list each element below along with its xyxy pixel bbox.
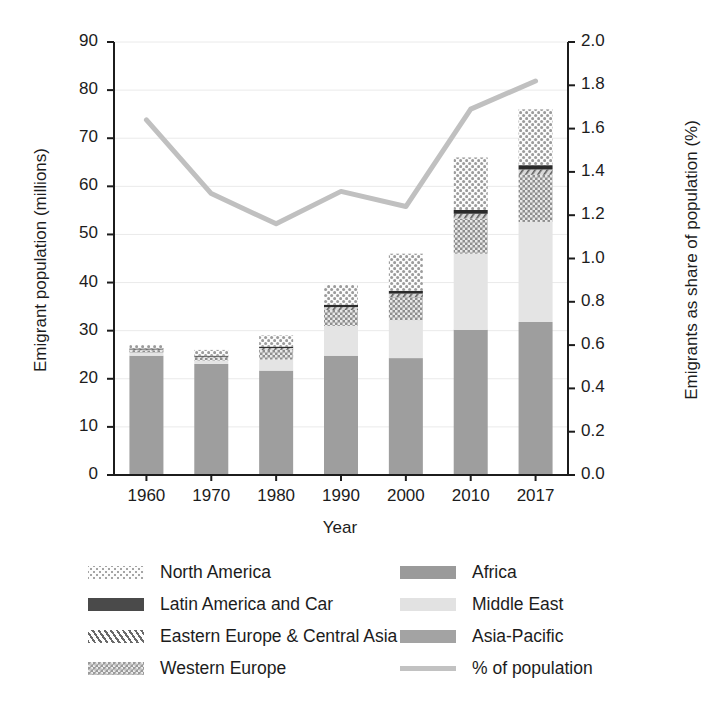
bar-segment	[259, 371, 293, 475]
legend-item-label: Middle East	[472, 594, 563, 615]
bar-segment	[454, 210, 488, 214]
y-axis-right-tick-label: 0.8	[581, 291, 621, 311]
bar-segment	[389, 358, 423, 475]
y-axis-right-tick-label: 0.0	[581, 464, 621, 484]
y-axis-left-tick-label: 40	[58, 272, 98, 292]
y-axis-left-tick-label: 90	[58, 31, 98, 51]
legend-item-label: Africa	[472, 562, 517, 583]
bar-segment	[324, 307, 358, 310]
y-axis-left-tick-label: 60	[58, 175, 98, 195]
legend-item[interactable]: % of population	[400, 652, 593, 684]
bar-segment	[129, 348, 163, 349]
y-axis-left-tick-label: 30	[58, 320, 98, 340]
y-axis-left-tick-label: 20	[58, 368, 98, 388]
bar-segment	[519, 109, 553, 165]
bar-segment	[389, 291, 423, 294]
bar-segment	[519, 222, 553, 322]
y-axis-right-tick-label: 1.6	[581, 118, 621, 138]
legend-swatch-icon	[88, 630, 144, 643]
legend-swatch-icon	[400, 666, 456, 671]
bar-segment	[519, 175, 553, 222]
bar-segment	[259, 350, 293, 360]
y-axis-left-tick-label: 50	[58, 223, 98, 243]
bar-segment	[454, 214, 488, 219]
x-axis-tick-label: 1980	[241, 486, 311, 506]
y-axis-right-tick-label: 1.4	[581, 161, 621, 181]
bar-segment	[389, 297, 423, 320]
bar-segment	[454, 254, 488, 330]
bar-segment	[389, 320, 423, 358]
y-axis-right-tick-label: 1.2	[581, 204, 621, 224]
x-axis-tick-label: 2000	[371, 486, 441, 506]
y-axis-left-title: Emigrant population (millions)	[31, 80, 51, 440]
bar-segment	[324, 326, 358, 356]
bar-segment	[324, 305, 358, 307]
bar-segment	[519, 322, 553, 475]
bar-segment	[259, 335, 293, 346]
legend-column-left: North AmericaLatin America and CarEaster…	[88, 556, 397, 684]
bar-segment	[324, 285, 358, 305]
x-axis-title: Year	[110, 518, 570, 538]
legend-swatch-icon	[88, 566, 144, 579]
y-axis-left-tick-label: 70	[58, 127, 98, 147]
bar-segment	[129, 345, 163, 348]
legend-item-label: Latin America and Car	[160, 594, 333, 615]
legend-item[interactable]: Asia-Pacific	[400, 620, 593, 652]
chart-bars	[129, 109, 552, 475]
x-axis-tick-label: 1990	[306, 486, 376, 506]
chart-container: Emigrant population (millions) Emigrants…	[0, 0, 707, 707]
x-axis-tick-label: 1970	[176, 486, 246, 506]
y-axis-right-tick-label: 1.8	[581, 74, 621, 94]
legend-item[interactable]: Latin America and Car	[88, 588, 397, 620]
legend-item-label: Eastern Europe & Central Asia	[160, 626, 397, 647]
legend-column-right: AfricaMiddle EastAsia-Pacific% of popula…	[400, 556, 593, 684]
legend-swatch-icon	[88, 662, 144, 675]
bar-segment	[454, 330, 488, 475]
legend-item-label: Western Europe	[160, 658, 286, 679]
bar-segment	[324, 356, 358, 475]
legend-swatch-icon	[400, 598, 456, 611]
bar-segment	[194, 357, 228, 358]
bar-segment	[389, 294, 423, 297]
legend-item[interactable]: North America	[88, 556, 397, 588]
legend-item[interactable]: Middle East	[400, 588, 593, 620]
bar-segment	[129, 349, 163, 350]
y-axis-left-tick-label: 80	[58, 79, 98, 99]
legend-item[interactable]: Western Europe	[88, 652, 397, 684]
y-axis-right-tick-label: 0.6	[581, 334, 621, 354]
legend-swatch-icon	[400, 566, 456, 579]
bar-segment	[194, 350, 228, 356]
x-axis-tick-label: 1960	[111, 486, 181, 506]
bar-segment	[259, 348, 293, 350]
bar-segment	[194, 358, 228, 361]
legend-swatch-icon	[88, 598, 144, 611]
bar-segment	[519, 169, 553, 174]
bar-segment	[454, 157, 488, 209]
bar-segment	[129, 350, 163, 352]
bar-segment	[259, 360, 293, 371]
y-axis-right-tick-label: 0.2	[581, 421, 621, 441]
y-axis-right-tick-label: 1.0	[581, 248, 621, 268]
bar-segment	[259, 347, 293, 348]
legend-item-label: North America	[160, 562, 271, 583]
y-axis-right-tick-label: 2.0	[581, 31, 621, 51]
y-axis-right-tick-label: 0.4	[581, 377, 621, 397]
x-axis-tick-label: 2017	[501, 486, 571, 506]
bar-segment	[324, 310, 358, 326]
bar-segment	[129, 356, 163, 475]
legend-item[interactable]: Africa	[400, 556, 593, 588]
bar-segment	[129, 353, 163, 356]
y-axis-left-tick-label: 0	[58, 464, 98, 484]
legend-swatch-icon	[400, 630, 456, 643]
bar-segment	[519, 165, 553, 169]
x-axis-tick-label: 2010	[436, 486, 506, 506]
legend-item-label: % of population	[472, 658, 593, 679]
bar-segment	[389, 254, 423, 291]
bar-segment	[194, 356, 228, 357]
bar-segment	[454, 219, 488, 254]
bar-segment	[194, 360, 228, 363]
legend-item[interactable]: Eastern Europe & Central Asia	[88, 620, 397, 652]
y-axis-right-title: Emigrants as share of population (%)	[682, 60, 702, 460]
legend-item-label: Asia-Pacific	[472, 626, 563, 647]
bar-segment	[194, 364, 228, 475]
